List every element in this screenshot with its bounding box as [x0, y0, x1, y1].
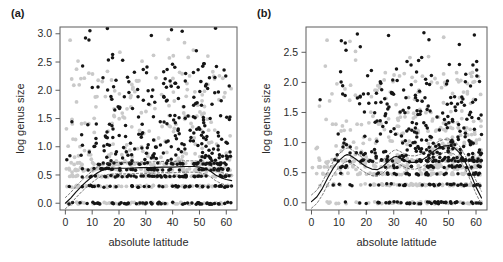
data-point: [341, 145, 345, 149]
data-point: [348, 39, 352, 43]
data-point: [217, 134, 221, 138]
data-point: [415, 135, 419, 139]
data-point: [444, 201, 448, 205]
data-point: [127, 80, 131, 84]
data-point: [92, 116, 96, 120]
data-point: [135, 79, 139, 83]
data-point: [100, 80, 104, 84]
data-point: [104, 134, 108, 138]
data-point: [75, 161, 79, 165]
data-point: [433, 184, 437, 188]
data-point: [446, 115, 450, 119]
data-point: [477, 117, 481, 121]
data-point: [141, 201, 145, 205]
data-point: [446, 79, 450, 83]
data-point: [407, 139, 411, 143]
data-point: [213, 91, 217, 95]
data-point: [387, 135, 391, 139]
data-point: [110, 97, 114, 101]
data-point: [216, 162, 220, 166]
data-point: [196, 68, 200, 72]
data-point: [456, 172, 460, 176]
data-point: [114, 185, 118, 189]
data-point: [415, 70, 419, 74]
data-point: [218, 74, 222, 78]
data-point: [165, 162, 169, 166]
data-point: [192, 71, 196, 75]
data-point: [440, 86, 444, 90]
data-point: [218, 153, 222, 157]
data-point: [403, 115, 407, 119]
data-point: [206, 54, 210, 58]
data-point: [416, 172, 420, 176]
data-point: [65, 158, 69, 162]
data-point: [331, 122, 335, 126]
data-point: [334, 122, 338, 126]
data-point: [341, 92, 345, 96]
data-point: [442, 101, 446, 105]
data-point: [195, 127, 199, 131]
data-point: [344, 200, 348, 204]
data-point: [188, 185, 192, 189]
data-point: [110, 78, 114, 82]
series-background-points: [311, 35, 483, 205]
data-point: [147, 129, 151, 133]
data-point: [351, 165, 355, 169]
data-point: [356, 32, 360, 36]
data-point: [403, 111, 407, 115]
data-point: [450, 101, 454, 105]
data-point: [358, 102, 362, 106]
y-tick-label: 0.5: [37, 169, 52, 181]
data-point: [69, 161, 73, 165]
data-point: [475, 68, 479, 72]
data-point: [479, 124, 483, 128]
data-point: [376, 200, 380, 204]
data-point: [344, 48, 348, 52]
data-point: [95, 122, 99, 126]
data-point: [438, 128, 442, 132]
data-point: [165, 151, 169, 155]
data-point: [220, 138, 224, 142]
x-tick-label: 60: [220, 216, 232, 228]
data-point: [395, 173, 399, 177]
data-point: [465, 92, 469, 96]
data-point: [480, 159, 484, 163]
data-point: [91, 72, 95, 76]
data-point: [391, 159, 395, 163]
data-point: [88, 29, 92, 32]
data-point: [196, 144, 200, 148]
data-point: [441, 142, 445, 146]
data-point: [103, 95, 107, 99]
data-point: [173, 65, 177, 69]
data-point: [373, 148, 377, 152]
data-point: [89, 157, 93, 161]
data-point: [388, 139, 392, 143]
data-point: [379, 100, 383, 104]
data-point: [470, 133, 474, 137]
figure-root: (a)01020304050600.00.51.01.52.02.53.0abs…: [0, 0, 503, 262]
x-tick-label: 50: [194, 216, 206, 228]
data-point: [341, 124, 345, 128]
data-point: [87, 38, 91, 42]
y-tick-label: 0.0: [283, 196, 298, 208]
data-point: [479, 93, 483, 97]
data-point: [475, 60, 479, 64]
data-point: [447, 121, 451, 125]
data-point: [465, 118, 469, 122]
data-point: [163, 77, 167, 81]
data-point: [145, 71, 149, 75]
data-point: [172, 127, 176, 131]
data-point: [407, 106, 411, 110]
data-point: [106, 88, 110, 92]
data-point: [445, 182, 449, 186]
x-tick-label: 30: [140, 216, 152, 228]
data-point: [152, 152, 156, 156]
data-point: [161, 185, 165, 189]
data-point: [339, 171, 343, 175]
data-point: [79, 154, 83, 158]
data-point: [78, 201, 82, 205]
data-point: [478, 171, 482, 175]
data-point: [392, 73, 396, 77]
data-point: [68, 154, 72, 158]
data-point: [330, 92, 334, 96]
